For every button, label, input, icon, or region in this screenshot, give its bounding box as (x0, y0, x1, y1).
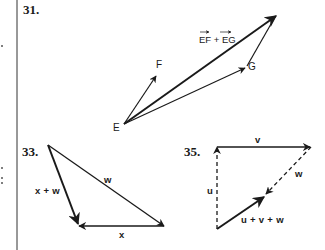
margin-mark (1, 182, 3, 184)
vector-w-35 (266, 147, 311, 194)
label-w-35: w (295, 168, 303, 179)
point-label-g: G (248, 61, 256, 72)
label-x-33: x (119, 229, 125, 240)
label-u-35: u (207, 185, 213, 196)
vector-diagrams (0, 0, 325, 250)
point-label-f: F (156, 59, 162, 70)
label-v-35: v (255, 134, 261, 145)
point-label-e: E (113, 122, 120, 133)
label-x-plus-w: x + w (35, 185, 60, 196)
vector-g-to-sum (247, 17, 275, 66)
resultant-label-ef-plus-eg: EF + EG (199, 34, 236, 45)
diagram-33 (48, 145, 164, 226)
problem-number-33: 33. (22, 144, 38, 160)
label-w-33: w (104, 174, 112, 185)
problem-number-35: 35. (184, 144, 200, 160)
label-u-plus-v-plus-w: u + v + w (241, 214, 284, 225)
vector-w-33 (48, 145, 164, 226)
margin-mark (1, 45, 3, 47)
margin-mark (1, 177, 3, 179)
margin-mark (1, 167, 3, 169)
problem-number-31: 31. (23, 2, 39, 18)
